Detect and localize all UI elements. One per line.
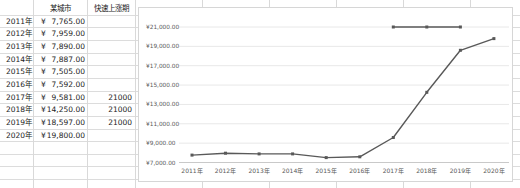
col-header-period[interactable]: 快速上涨期 (87, 3, 135, 16)
currency-symbol: ¥ (41, 66, 46, 79)
x-tick-label: 2015年 (309, 166, 343, 175)
currency-amount: 14,250.00 (47, 104, 85, 117)
currency-symbol: ¥ (41, 92, 46, 105)
y-tick-label: ¥13,000.00 (146, 101, 179, 107)
currency-amount: 7,890.00 (52, 41, 85, 54)
cell-year[interactable]: 2012年 (0, 28, 33, 41)
cell-year[interactable]: 2011年 (0, 16, 33, 29)
currency-symbol: ¥ (41, 16, 46, 29)
y-tick-label: ¥17,000.00 (146, 63, 179, 69)
x-tick-label: 2016年 (343, 166, 377, 175)
x-tick-label: 2013年 (242, 166, 276, 175)
cell-currency-value[interactable]: ¥7,890.00 (33, 41, 87, 54)
cell-currency-value[interactable]: ¥7,592.00 (33, 79, 87, 92)
currency-amount: 7,592.00 (52, 79, 85, 92)
cell-currency-value[interactable]: ¥7,959.00 (33, 28, 87, 41)
currency-symbol: ¥ (41, 28, 46, 41)
currency-amount: 9,581.00 (52, 92, 85, 105)
x-tick-label: 2019年 (443, 166, 477, 175)
currency-symbol: ¥ (41, 130, 46, 143)
currency-symbol: ¥ (41, 79, 46, 92)
cell-year[interactable]: 2018年 (0, 104, 33, 117)
y-tick-label: ¥7,000.00 (146, 160, 176, 166)
x-tick-label: 2011年 (175, 166, 209, 175)
currency-amount: 7,887.00 (52, 54, 85, 67)
cell-currency-value[interactable]: ¥19,800.00 (33, 130, 87, 143)
y-tick-label: ¥9,000.00 (146, 140, 176, 146)
cell-year[interactable]: 2015年 (0, 66, 33, 79)
x-tick-label: 2017年 (376, 166, 410, 175)
x-tick-label: 2020年 (477, 166, 511, 175)
x-tick-label: 2014年 (276, 166, 310, 175)
sheet-gridline (135, 0, 136, 188)
col-header-city[interactable]: 某城市 (33, 3, 87, 16)
x-tick-label: 2018年 (410, 166, 444, 175)
cell-currency-value[interactable]: ¥7,765.00 (33, 16, 87, 29)
currency-amount: 18,597.00 (47, 117, 85, 130)
series-line-0 (192, 39, 494, 158)
price-line-chart[interactable]: ¥21,000.00¥19,000.00¥17,000.00¥15,000.00… (138, 7, 513, 182)
cell-period[interactable]: 21000 (87, 92, 135, 105)
currency-symbol: ¥ (41, 104, 46, 117)
currency-amount: 7,959.00 (52, 28, 85, 41)
chart-plot-area (139, 8, 514, 183)
workbook-canvas: 某城市快速上涨期2011年¥7,765.002012年¥7,959.002013… (0, 0, 520, 188)
currency-amount: 7,505.00 (52, 66, 85, 79)
currency-symbol: ¥ (41, 41, 46, 54)
currency-amount: 7,765.00 (52, 16, 85, 29)
cell-currency-value[interactable]: ¥14,250.00 (33, 104, 87, 117)
cell-currency-value[interactable]: ¥9,581.00 (33, 92, 87, 105)
cell-period[interactable]: 21000 (87, 104, 135, 117)
cell-year[interactable]: 2017年 (0, 92, 33, 105)
y-tick-label: ¥19,000.00 (146, 43, 179, 49)
currency-symbol: ¥ (41, 117, 46, 130)
cell-year[interactable]: 2016年 (0, 79, 33, 92)
cell-year[interactable]: 2013年 (0, 41, 33, 54)
cell-year[interactable]: 2014年 (0, 54, 33, 67)
cell-year[interactable]: 2019年 (0, 117, 33, 130)
cell-currency-value[interactable]: ¥18,597.00 (33, 117, 87, 130)
cell-year[interactable]: 2020年 (0, 130, 33, 143)
currency-amount: 19,800.00 (47, 130, 85, 143)
cell-currency-value[interactable]: ¥7,887.00 (33, 54, 87, 67)
x-tick-label: 2012年 (209, 166, 243, 175)
cell-period[interactable]: 21000 (87, 117, 135, 130)
y-tick-label: ¥21,000.00 (146, 24, 179, 30)
y-tick-label: ¥15,000.00 (146, 82, 179, 88)
y-tick-label: ¥11,000.00 (146, 121, 179, 127)
currency-symbol: ¥ (41, 54, 46, 67)
cell-currency-value[interactable]: ¥7,505.00 (33, 66, 87, 79)
